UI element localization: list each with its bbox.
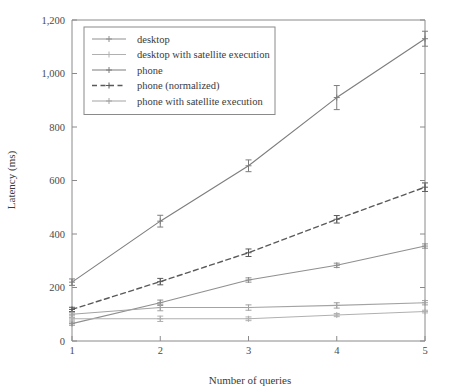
x-tick-label: 4 — [334, 345, 340, 356]
x-tick-label: 5 — [422, 345, 427, 356]
x-tick-label: 3 — [246, 345, 251, 356]
y-tick-label: 800 — [49, 122, 65, 133]
y-tick-label: 400 — [49, 229, 65, 240]
legend-label: desktop with satellite execution — [137, 49, 270, 60]
legend-label: desktop — [137, 34, 170, 45]
y-tick-label: 1,000 — [41, 68, 65, 79]
y-tick-label: 1,200 — [41, 15, 65, 26]
x-tick-label: 2 — [158, 345, 163, 356]
chart-figure: 02004006008001,0001,200 12345 desktopdes… — [0, 0, 467, 392]
latency-line-chart: 02004006008001,0001,200 12345 desktopdes… — [0, 0, 467, 392]
x-axis-title: Number of queries — [209, 374, 291, 386]
x-tick-label: 1 — [69, 345, 74, 356]
chart-legend: desktopdesktop with satellite executionp… — [84, 27, 275, 115]
y-tick-label: 0 — [60, 336, 65, 347]
legend-label: phone with satellite execution — [137, 96, 263, 107]
y-tick-label: 200 — [49, 282, 65, 293]
y-axis-title: Latency (ms) — [5, 150, 18, 209]
y-tick-label: 600 — [49, 175, 65, 186]
legend-label: phone (normalized) — [137, 80, 220, 92]
legend-label: phone — [137, 65, 163, 76]
